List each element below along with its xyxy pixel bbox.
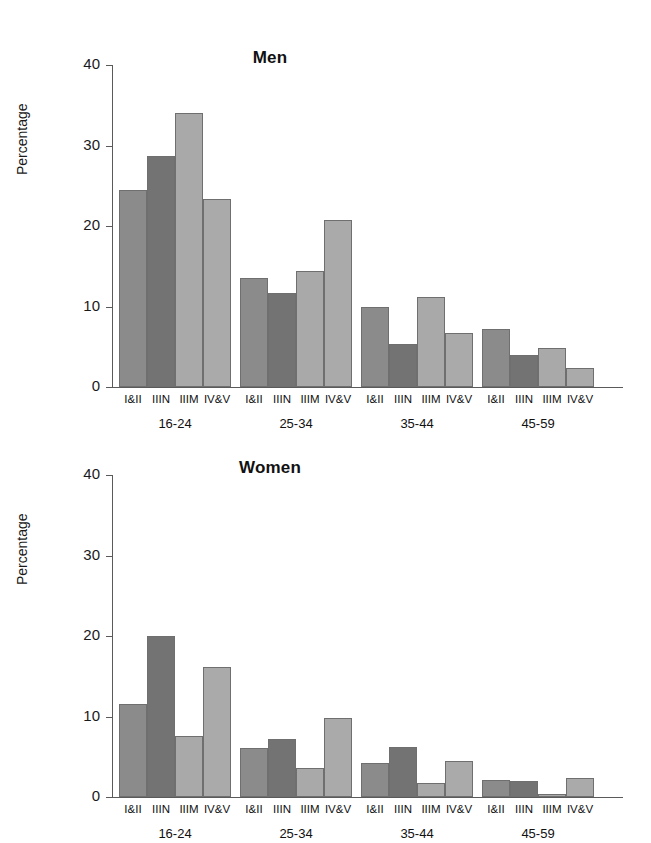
x-axis-category-label: IV&V: [561, 393, 599, 405]
bar: [445, 761, 473, 797]
x-axis-category-label: IV&V: [319, 803, 357, 815]
bar: [482, 780, 510, 797]
y-axis-tick: 0: [106, 387, 113, 388]
bar: [538, 794, 566, 797]
bar: [147, 636, 175, 797]
x-axis-category-label: IV&V: [561, 803, 599, 815]
x-axis-line: [106, 387, 623, 388]
y-axis-label-women: Percentage: [14, 513, 30, 585]
y-axis-tick-label: 20: [83, 626, 100, 643]
bar: [296, 768, 324, 797]
y-axis-tick: 40: [106, 475, 113, 476]
y-axis-tick-label: 40: [83, 465, 100, 482]
y-axis-tick-label: 20: [83, 216, 100, 233]
y-axis-label-men: Percentage: [14, 103, 30, 175]
bar: [119, 704, 147, 797]
bar: [203, 667, 231, 797]
bar: [538, 348, 566, 387]
y-axis-tick: 40: [106, 65, 113, 66]
chart-page: Men Percentage 403020100I&IIIIINIIIMIV&V…: [0, 0, 651, 843]
x-axis-category-label: IV&V: [198, 803, 236, 815]
plot-area-women: 403020100I&IIIIINIIIMIV&V16-24I&IIIIINII…: [113, 475, 623, 797]
bar-group: I&IIIIINIIIMIV&V16-24: [119, 65, 231, 387]
y-axis-tick-label: 40: [83, 55, 100, 72]
y-axis-tick-label: 30: [83, 546, 100, 563]
y-axis-tick-label: 10: [83, 297, 100, 314]
bar: [175, 736, 203, 797]
bar: [119, 190, 147, 387]
bar: [268, 739, 296, 797]
bar: [361, 307, 389, 387]
bar-group: I&IIIIINIIIMIV&V25-34: [240, 65, 352, 387]
bar: [417, 297, 445, 387]
y-axis-tick: 20: [106, 226, 113, 227]
x-axis-category-label: IV&V: [440, 803, 478, 815]
bar-group: I&IIIIINIIIMIV&V45-59: [482, 65, 594, 387]
x-axis-group-label: 45-59: [482, 826, 594, 841]
bar: [510, 781, 538, 797]
bar: [268, 293, 296, 387]
y-axis-tick-label: 0: [92, 787, 100, 804]
bar-group: I&IIIIINIIIMIV&V35-44: [361, 65, 473, 387]
bar-group: I&IIIIINIIIMIV&V16-24: [119, 475, 231, 797]
bar: [296, 271, 324, 387]
x-axis-group-label: 16-24: [119, 826, 231, 841]
bar: [240, 748, 268, 797]
x-axis-group-label: 35-44: [361, 826, 473, 841]
bar: [147, 156, 175, 387]
bar-group: I&IIIIINIIIMIV&V45-59: [482, 475, 594, 797]
x-axis-category-label: IV&V: [440, 393, 478, 405]
bar: [389, 747, 417, 797]
bar: [361, 763, 389, 797]
y-axis-tick: 10: [106, 717, 113, 718]
chart-panel-men: Men Percentage 403020100I&IIIIINIIIMIV&V…: [0, 30, 651, 430]
y-axis-tick-label: 0: [92, 377, 100, 394]
bar: [445, 333, 473, 387]
bar: [389, 344, 417, 387]
bar: [566, 778, 594, 797]
x-axis-group-label: 16-24: [119, 416, 231, 431]
bar: [203, 199, 231, 387]
x-axis-group-label: 35-44: [361, 416, 473, 431]
y-axis-tick: 30: [106, 146, 113, 147]
bar: [417, 783, 445, 797]
bar: [324, 718, 352, 797]
y-axis-tick-label: 10: [83, 707, 100, 724]
bar-group: I&IIIIINIIIMIV&V25-34: [240, 475, 352, 797]
bar: [324, 220, 352, 387]
x-axis-group-label: 25-34: [240, 416, 352, 431]
plot-area-men: 403020100I&IIIIINIIIMIV&V16-24I&IIIIINII…: [113, 65, 623, 387]
bar-group: I&IIIIINIIIMIV&V35-44: [361, 475, 473, 797]
bar: [510, 355, 538, 387]
x-axis-line: [106, 797, 623, 798]
y-axis-tick: 20: [106, 636, 113, 637]
y-axis-tick: 0: [106, 797, 113, 798]
bar: [175, 113, 203, 387]
y-axis-tick: 30: [106, 556, 113, 557]
bar: [240, 278, 268, 387]
bar: [566, 368, 594, 387]
x-axis-category-label: IV&V: [319, 393, 357, 405]
chart-panel-women: Women Percentage 403020100I&IIIIINIIIMIV…: [0, 440, 651, 840]
x-axis-category-label: IV&V: [198, 393, 236, 405]
y-axis-tick-label: 30: [83, 136, 100, 153]
bar: [482, 329, 510, 387]
x-axis-group-label: 45-59: [482, 416, 594, 431]
y-axis-tick: 10: [106, 307, 113, 308]
x-axis-group-label: 25-34: [240, 826, 352, 841]
